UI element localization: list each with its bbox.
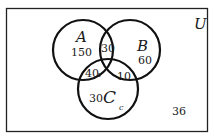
universe-label: U [194,15,208,33]
region-b-and-c: 10 [117,70,131,83]
region-a-only: 150 [71,46,92,59]
set-label-c: C [103,87,116,107]
region-b-only: 60 [138,54,152,67]
region-a-and-b: 30 [101,42,115,55]
region-c-variable: c [119,103,124,112]
set-label-a: A [74,28,87,46]
region-c-only: 30 [89,92,103,105]
set-label-b: B [136,37,148,55]
region-outside: 36 [172,105,186,118]
region-a-and-c-variable: z [96,70,102,79]
venn-diagram: U A B C 150 30 60 40 z 10 30 c 36 [0,0,214,137]
